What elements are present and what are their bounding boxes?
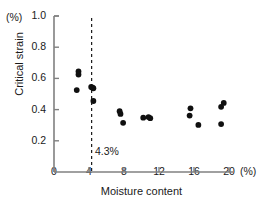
scatter-chart-figure: (%) (%) Critical strain Moisture content… — [0, 0, 277, 206]
data-point — [118, 111, 124, 117]
data-point — [187, 113, 193, 119]
data-point — [195, 122, 201, 128]
data-point — [90, 98, 96, 104]
plot-area — [0, 0, 277, 206]
data-point — [74, 87, 80, 93]
data-point — [218, 104, 224, 110]
data-point — [76, 72, 82, 78]
data-point — [218, 121, 224, 127]
data-point — [90, 85, 96, 91]
data-point — [120, 120, 126, 126]
data-point — [188, 105, 194, 111]
data-point — [147, 115, 153, 121]
data-point — [140, 115, 146, 121]
